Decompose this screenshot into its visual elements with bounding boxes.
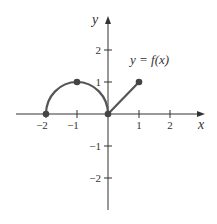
function-label: y = f(x)	[128, 52, 169, 67]
y-tick-label: −1	[89, 140, 101, 152]
y-tick-label: −2	[89, 172, 101, 184]
x-tick-label: 1	[136, 119, 142, 131]
line-segment	[108, 82, 139, 114]
y-axis-label: y	[90, 12, 99, 27]
point-neg2-0	[43, 111, 50, 118]
y-tick-label: 1	[96, 76, 102, 88]
x-tick-label: −2	[36, 119, 48, 131]
point-0-0	[105, 111, 112, 118]
point-1-1	[136, 79, 143, 86]
y-axis-arrow-icon	[105, 16, 111, 24]
x-tick-label: −1	[67, 119, 79, 131]
y-tick-label: 2	[96, 44, 102, 56]
point-neg1-1	[74, 79, 81, 86]
x-axis-label: x	[197, 117, 205, 132]
x-tick-label: 2	[167, 119, 173, 131]
function-graph: −2 −1 1 2 2 1 −1 −2 x y y = f(x)	[0, 0, 217, 224]
